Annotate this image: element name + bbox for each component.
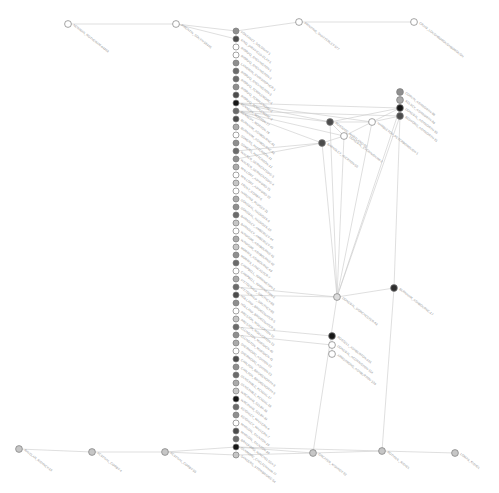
nodes-layer [16,19,459,458]
graph-node[interactable] [233,396,239,402]
graph-node[interactable] [233,132,239,138]
graph-node[interactable] [233,324,239,330]
graph-edge [330,108,400,122]
graph-node[interactable] [233,28,239,34]
graph-node[interactable] [233,356,239,362]
network-graph-canvas: NEWMAN_ROTHERAM-64303FIRENTIN_SOUTH-5944… [0,0,499,493]
graph-node-label: GREATER_KISHNEY-92 [317,452,347,477]
graph-node[interactable] [233,316,239,322]
graph-node[interactable] [233,420,239,426]
graph-edge [165,447,236,452]
graph-node[interactable] [233,340,239,346]
graph-node[interactable] [341,133,348,140]
graph-node[interactable] [329,333,336,340]
graph-node[interactable] [233,444,239,450]
graph-node[interactable] [310,450,317,457]
graph-node[interactable] [233,148,239,154]
graph-node[interactable] [397,97,404,104]
graph-node[interactable] [233,164,239,170]
graph-node[interactable] [329,351,336,358]
graph-node[interactable] [296,19,303,26]
graph-node[interactable] [233,284,239,290]
graph-node-label: HAMBLETON_PETERBOROUGH-1 [376,121,419,156]
graph-node[interactable] [327,119,334,126]
graph-node[interactable] [233,180,239,186]
graph-node-label: PRINTING_SHATTERLEY-577 [303,21,340,51]
graph-node[interactable] [233,436,239,442]
graph-node[interactable] [173,21,180,28]
graph-edge [337,288,394,297]
graph-node[interactable] [162,449,169,456]
graph-node[interactable] [369,119,376,126]
graph-node[interactable] [397,105,404,112]
graph-node[interactable] [233,300,239,306]
graph-edge [382,288,394,451]
graph-node-label: DONEGAL_DORCHESTER-63 [341,296,378,326]
graph-node[interactable] [233,228,239,234]
graph-edge [337,136,344,297]
graph-node[interactable] [233,36,239,42]
graph-node[interactable] [233,260,239,266]
graph-node[interactable] [233,244,239,250]
graph-edge [322,143,337,297]
graph-node[interactable] [233,380,239,386]
graph-node-label: LOMAS_KISHEL [459,452,481,470]
graph-node[interactable] [233,404,239,410]
graph-node[interactable] [233,52,239,58]
graph-node[interactable] [411,19,418,26]
graph-node-label: NEWMAN_ROTHERAM-64303 [72,23,109,53]
graph-node[interactable] [397,89,404,96]
graph-node[interactable] [233,364,239,370]
graph-edge [313,297,337,453]
graph-node[interactable] [233,172,239,178]
graph-node[interactable] [16,446,23,453]
graph-node[interactable] [233,292,239,298]
graph-node[interactable] [233,92,239,98]
graph-node[interactable] [233,76,239,82]
graph-node[interactable] [233,68,239,74]
graph-node[interactable] [233,268,239,274]
graph-node[interactable] [233,276,239,282]
graph-node[interactable] [233,252,239,258]
graph-node[interactable] [397,113,404,120]
graph-node-label: FESTIVAL_CORBY-4 [96,451,123,473]
graph-node-label: FIRENTIN_SOUTH-59445 [180,23,212,49]
graph-node[interactable] [233,332,239,338]
graph-node[interactable] [233,188,239,194]
labels-layer: NEWMAN_ROTHERAM-64303FIRENTIN_SOUTH-5944… [23,21,481,484]
graph-node[interactable] [233,116,239,122]
graph-node[interactable] [233,220,239,226]
graph-node[interactable] [233,100,239,106]
graph-node[interactable] [233,428,239,434]
graph-node-label: ROTHWIL_KISHEL [386,450,410,470]
graph-node[interactable] [89,449,96,456]
graph-node[interactable] [233,212,239,218]
graph-node[interactable] [319,140,326,147]
graph-node[interactable] [233,412,239,418]
graph-edge [236,22,299,31]
graph-node[interactable] [391,285,398,292]
graph-node[interactable] [379,448,386,455]
graph-node[interactable] [233,44,239,50]
graph-node[interactable] [233,196,239,202]
graph-node[interactable] [233,60,239,66]
graph-node[interactable] [233,108,239,114]
network-graph-svg: NEWMAN_ROTHERAM-64303FIRENTIN_SOUTH-5944… [0,0,499,493]
graph-node[interactable] [233,348,239,354]
graph-node-label: RAVELAR_KISHNEY-19 [23,448,53,473]
graph-node[interactable] [233,308,239,314]
graph-edge [313,451,382,453]
graph-node[interactable] [233,124,239,130]
graph-node[interactable] [233,156,239,162]
graph-node[interactable] [65,21,72,28]
graph-node[interactable] [452,450,459,457]
graph-node[interactable] [233,204,239,210]
graph-node[interactable] [233,84,239,90]
graph-node[interactable] [233,388,239,394]
graph-node[interactable] [233,372,239,378]
graph-node[interactable] [334,294,341,301]
graph-node[interactable] [233,452,239,458]
graph-node[interactable] [233,140,239,146]
graph-node[interactable] [329,342,336,349]
graph-node[interactable] [233,236,239,242]
